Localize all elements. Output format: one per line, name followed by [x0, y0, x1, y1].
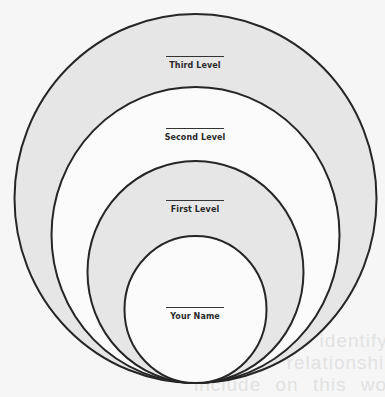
second-level-label: Second Level: [155, 128, 235, 142]
name-line[interactable]: [166, 200, 224, 201]
your-name-label: Your Name: [155, 307, 235, 321]
name-line[interactable]: [166, 56, 224, 57]
name-line[interactable]: [166, 307, 224, 308]
third-level-label: Third Level: [155, 56, 235, 70]
name-line[interactable]: [166, 128, 224, 129]
first-level-label: First Level: [155, 200, 235, 214]
